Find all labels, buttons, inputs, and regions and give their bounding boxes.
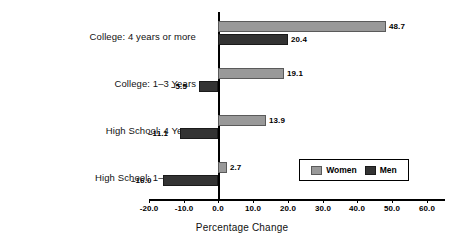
legend-item-women: Women bbox=[311, 165, 357, 175]
category-label-column: College: 4 years or more College: 1–3 Ye… bbox=[0, 0, 196, 246]
bar-value-women-1: 19.1 bbox=[287, 68, 303, 79]
legend-item-men: Men bbox=[365, 165, 397, 175]
x-tick-mark-6 bbox=[357, 199, 358, 203]
x-tick-label-2: 0.0 bbox=[212, 204, 223, 213]
legend-label-women: Women bbox=[326, 165, 357, 175]
bar-men-2 bbox=[180, 128, 218, 139]
bar-value-men-3: –16.0 bbox=[131, 175, 152, 186]
x-axis-line bbox=[149, 199, 445, 201]
bar-value-men-1: –5.5 bbox=[171, 81, 187, 92]
x-tick-label-1: -10.0 bbox=[175, 204, 194, 213]
bar-men-1 bbox=[199, 81, 218, 92]
x-tick-label-7: 50.0 bbox=[384, 204, 400, 213]
x-tick-label-3: 10.0 bbox=[245, 204, 261, 213]
bar-value-men-2: –11.1 bbox=[148, 128, 168, 139]
x-axis-title-wrap: Percentage Change bbox=[0, 222, 460, 233]
bar-men-0 bbox=[218, 34, 288, 45]
x-tick-mark-0 bbox=[149, 199, 150, 203]
x-tick-mark-5 bbox=[323, 199, 324, 203]
x-axis-title: Percentage Change bbox=[196, 222, 288, 233]
x-tick-mark-4 bbox=[288, 199, 289, 203]
x-tick-mark-7 bbox=[392, 199, 393, 203]
legend-swatch-men-icon bbox=[365, 166, 376, 175]
bar-value-women-3: 2.7 bbox=[230, 162, 241, 173]
bar-value-men-0: 20.4 bbox=[291, 34, 307, 45]
bar-women-0 bbox=[218, 21, 386, 32]
x-tick-label-5: 30.0 bbox=[315, 204, 331, 213]
legend-label-men: Men bbox=[380, 165, 397, 175]
chart-legend: Women Men bbox=[299, 159, 409, 181]
bar-value-women-2: 13.9 bbox=[269, 115, 285, 126]
x-tick-mark-8 bbox=[427, 199, 428, 203]
bar-women-3 bbox=[218, 162, 227, 173]
x-tick-label-8: 60.0 bbox=[419, 204, 435, 213]
x-tick-label-0: -20.0 bbox=[140, 204, 159, 213]
bar-men-3 bbox=[163, 175, 218, 186]
x-tick-mark-2 bbox=[218, 199, 219, 203]
x-tick-mark-1 bbox=[184, 199, 185, 203]
bar-women-2 bbox=[218, 115, 266, 126]
bar-women-1 bbox=[218, 68, 284, 79]
x-tick-mark-3 bbox=[253, 199, 254, 203]
category-label-0: College: 4 years or more bbox=[90, 31, 196, 42]
legend-swatch-women-icon bbox=[311, 166, 322, 175]
x-tick-label-6: 40.0 bbox=[349, 204, 365, 213]
bar-value-women-0: 48.7 bbox=[389, 21, 405, 32]
x-tick-label-4: 20.0 bbox=[280, 204, 296, 213]
bar-chart: College: 4 years or more College: 1–3 Ye… bbox=[0, 0, 460, 246]
